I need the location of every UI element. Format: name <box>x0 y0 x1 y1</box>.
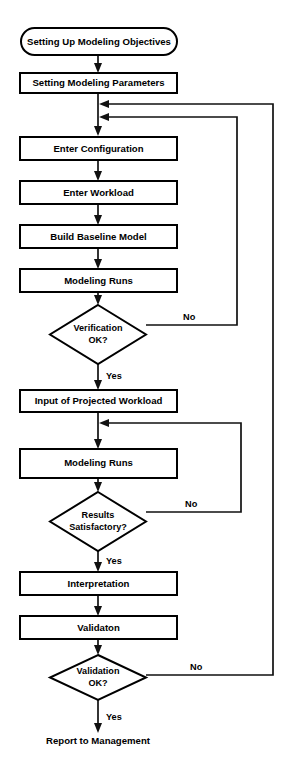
node-enter-workload[interactable]: Enter Workload <box>20 181 177 204</box>
node-validation-ok-decision[interactable]: Validation OK? <box>50 655 146 700</box>
node-label-workload: Enter Workload <box>63 187 134 198</box>
edge-label-validation-no: No <box>190 662 203 672</box>
node-setting-modeling-parameters[interactable]: Setting Modeling Parameters <box>20 73 177 93</box>
edge-projected-to-runs2 <box>94 412 102 449</box>
node-modeling-runs-1[interactable]: Modeling Runs <box>20 269 177 292</box>
edge-workload-to-baseline <box>94 204 102 225</box>
node-label-start: Setting Up Modeling Objectives <box>27 36 171 47</box>
edge-label-results-no: No <box>185 499 198 509</box>
node-label-projected: Input of Projected Workload <box>35 395 163 406</box>
node-label-runs2: Modeling Runs <box>64 457 133 468</box>
flowchart-svg: Setting Up Modeling Objectives Setting M… <box>0 0 288 762</box>
node-results-satisfactory-decision[interactable]: Results Satisfactory? <box>50 492 146 551</box>
edge-params-to-config <box>94 93 102 136</box>
node-build-baseline-model[interactable]: Build Baseline Model <box>20 225 177 248</box>
node-verification-ok-decision[interactable]: Verification OK? <box>50 305 146 364</box>
edge-label-verify-yes: Yes <box>106 371 122 381</box>
node-interpretation[interactable]: Interpretation <box>20 572 177 595</box>
node-enter-configuration[interactable]: Enter Configuration <box>20 137 177 160</box>
edge-validaton-to-validation <box>94 639 102 655</box>
flowchart-canvas: Setting Up Modeling Objectives Setting M… <box>0 0 288 762</box>
node-label-validation-line1: Validation <box>77 666 120 676</box>
node-label-results-line1: Results <box>82 510 115 520</box>
edge-baseline-to-runs1 <box>94 248 102 269</box>
node-modeling-runs-2[interactable]: Modeling Runs <box>20 449 177 478</box>
node-label-results-line2: Satisfactory? <box>69 522 127 532</box>
node-label-baseline: Build Baseline Model <box>50 231 147 242</box>
node-label-verify-line1: Verification <box>73 323 122 333</box>
edge-label-results-yes: Yes <box>106 556 122 566</box>
edge-interpret-to-validaton <box>94 595 102 616</box>
node-validaton[interactable]: Validaton <box>20 616 177 639</box>
node-label-config: Enter Configuration <box>53 143 143 154</box>
node-label-params: Setting Modeling Parameters <box>32 77 164 88</box>
node-label-runs1: Modeling Runs <box>64 275 133 286</box>
edge-results-yes <box>94 551 102 572</box>
node-input-of-projected-workload[interactable]: Input of Projected Workload <box>20 390 177 412</box>
node-label-validaton: Validaton <box>77 622 120 633</box>
node-label-verify-line2: OK? <box>88 335 108 345</box>
node-label-validation-line2: OK? <box>88 678 108 688</box>
edge-label-verify-no: No <box>183 312 196 322</box>
edge-runs1-to-verify <box>94 292 102 305</box>
edge-verify-yes <box>94 364 102 390</box>
edge-runs2-to-results <box>94 478 102 492</box>
node-setting-up-modeling-objectives[interactable]: Setting Up Modeling Objectives <box>21 28 177 55</box>
edge-config-to-workload <box>94 160 102 181</box>
node-label-report: Report to Management <box>46 735 151 746</box>
edge-label-validation-yes: Yes <box>106 712 122 722</box>
node-report-to-management: Report to Management <box>46 735 151 746</box>
edge-validation-yes <box>94 700 102 733</box>
node-label-interpret: Interpretation <box>68 578 130 589</box>
edge-start-to-params <box>94 55 102 73</box>
